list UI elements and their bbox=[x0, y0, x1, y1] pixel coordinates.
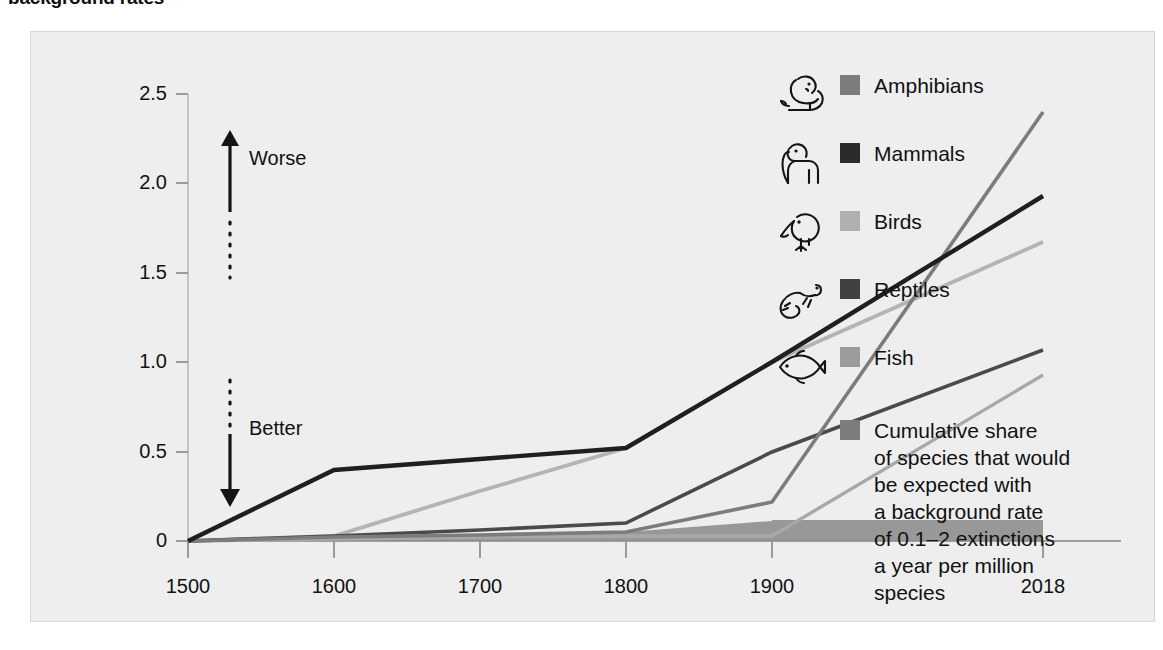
y-tick-label: 2.0 bbox=[107, 171, 167, 194]
y-tick-label: 0 bbox=[107, 529, 167, 552]
legend-label-reptiles: Reptiles bbox=[874, 276, 950, 303]
lizard-icon bbox=[776, 276, 828, 322]
legend-item-birds[interactable]: Birds bbox=[776, 208, 922, 254]
legend-label-background-rate: Cumulative share of species that would b… bbox=[874, 417, 1070, 606]
legend-item-mammals[interactable]: Mammals bbox=[776, 140, 965, 186]
legend-item-fish[interactable]: Fish bbox=[776, 344, 914, 390]
kiwi-bird-icon bbox=[776, 208, 828, 254]
worse-label: Worse bbox=[249, 147, 306, 170]
chart-figure: background rates Cumulative share of spe… bbox=[0, 0, 1163, 650]
legend-swatch-mammals bbox=[840, 143, 860, 163]
x-tick-label: 1800 bbox=[581, 575, 671, 598]
legend-label-birds: Birds bbox=[874, 208, 922, 235]
legend-label-mammals: Mammals bbox=[874, 140, 965, 167]
legend-swatch-background-rate bbox=[840, 420, 860, 440]
y-tick-label: 0.5 bbox=[107, 440, 167, 463]
chart-panel: Cumulative share of species driven extin… bbox=[30, 31, 1155, 622]
fish-icon bbox=[776, 344, 828, 390]
x-tick-label: 1700 bbox=[435, 575, 525, 598]
gorilla-icon bbox=[776, 140, 828, 186]
y-tick-label: 1.0 bbox=[107, 350, 167, 373]
x-tick-label: 1600 bbox=[289, 575, 379, 598]
legend-item-background-rate[interactable]: Cumulative share of species that would b… bbox=[776, 417, 1070, 606]
better-label: Better bbox=[249, 417, 302, 440]
legend-item-reptiles[interactable]: Reptiles bbox=[776, 276, 950, 322]
legend-swatch-birds bbox=[840, 211, 860, 231]
legend-item-amphibians[interactable]: Amphibians bbox=[776, 72, 984, 118]
frog-icon bbox=[776, 72, 828, 118]
better-arrow-icon bbox=[220, 380, 240, 507]
legend-swatch-fish bbox=[840, 347, 860, 367]
y-axis-ticks bbox=[176, 94, 188, 541]
legend-label-amphibians: Amphibians bbox=[874, 72, 984, 99]
legend-swatch-reptiles bbox=[840, 279, 860, 299]
y-tick-label: 2.5 bbox=[107, 82, 167, 105]
page-title: background rates bbox=[8, 0, 164, 9]
spacer-icon bbox=[776, 417, 828, 463]
x-tick-label: 1500 bbox=[143, 575, 233, 598]
legend-swatch-amphibians bbox=[840, 75, 860, 95]
worse-arrow-icon bbox=[221, 130, 239, 278]
y-tick-label: 1.5 bbox=[107, 261, 167, 284]
legend-label-fish: Fish bbox=[874, 344, 914, 371]
